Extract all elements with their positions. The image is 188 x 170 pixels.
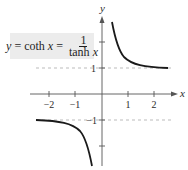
curve-negative-branch xyxy=(36,120,92,166)
x-tick-label-2: 2 xyxy=(152,99,157,110)
y-axis-label: y xyxy=(99,2,105,14)
y-tick-label-1: 1 xyxy=(91,63,96,74)
x-axis-label: x xyxy=(179,87,185,99)
coth-graph: −2 −1 1 2 1 −1 x y xyxy=(0,0,188,170)
y-tick-label-neg1: −1 xyxy=(86,115,97,126)
formula-lhs: y xyxy=(6,39,11,54)
formula-eq2: = xyxy=(56,39,63,54)
x-tick-label-neg2: −2 xyxy=(44,99,55,110)
formula-fraction: 1 tanh x xyxy=(69,35,98,58)
formula-eq1: = xyxy=(14,39,21,54)
fraction-denominator: tanh x xyxy=(69,47,98,58)
function-label: y = coth x = 1 tanh x xyxy=(10,33,94,59)
formula-coth: coth xyxy=(24,39,45,54)
x-tick-label-neg1: −1 xyxy=(70,99,81,110)
formula-var: x xyxy=(48,39,53,54)
curve-positive-branch xyxy=(112,22,168,68)
denominator-fn: tanh xyxy=(69,45,90,59)
x-tick-label-1: 1 xyxy=(126,99,131,110)
denominator-var: x xyxy=(93,45,98,59)
x-axis-arrow-icon xyxy=(171,92,178,97)
y-axis-arrow-icon xyxy=(100,16,105,23)
